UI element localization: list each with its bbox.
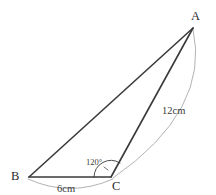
angle-label-leader bbox=[104, 167, 108, 170]
measure-arc-ca bbox=[113, 29, 196, 178]
vertex-label-c: C bbox=[112, 180, 120, 193]
edge-ba bbox=[29, 28, 193, 177]
measure-label-ca: 12cm bbox=[162, 106, 185, 117]
vertex-label-b: B bbox=[11, 170, 19, 183]
measure-label-bc: 6cm bbox=[57, 184, 75, 195]
vertex-label-a: A bbox=[191, 10, 200, 23]
geometry-canvas bbox=[0, 0, 216, 195]
angle-label-bca: 120° bbox=[86, 158, 102, 167]
edge-ca bbox=[111, 28, 193, 177]
geometry-figure: A B C 12cm 6cm 120° bbox=[0, 0, 216, 195]
